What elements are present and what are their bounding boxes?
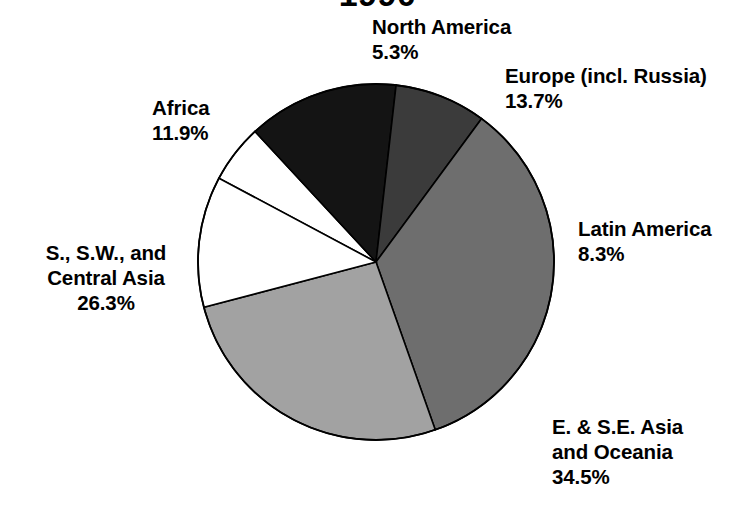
slice-label-east-southeast-asia-oceania-line2: and Oceania	[552, 439, 683, 464]
slice-label-latin-america-value: 8.3%	[578, 241, 712, 266]
chart-title: 1990	[0, 0, 755, 14]
slice-label-east-southeast-asia-oceania-line1: E. & S.E. Asia	[552, 415, 683, 438]
slice-label-africa: Africa 11.9%	[152, 95, 210, 145]
pie-graphic	[197, 83, 555, 441]
slice-label-latin-america-name: Latin America	[578, 217, 712, 240]
slice-label-latin-america: Latin America 8.3%	[578, 216, 712, 266]
slice-label-africa-value: 11.9%	[152, 120, 210, 145]
slice-label-north-america: North America 5.3%	[372, 14, 511, 64]
slice-label-africa-name: Africa	[152, 96, 210, 119]
slice-label-europe-value: 13.7%	[505, 88, 707, 113]
slice-label-europe: Europe (incl. Russia) 13.7%	[505, 63, 707, 113]
slice-label-east-southeast-asia-oceania-value: 34.5%	[552, 464, 683, 489]
slice-label-south-southwest-central-asia-line2: Central Asia	[6, 265, 206, 290]
slice-label-south-southwest-central-asia: S., S.W., and Central Asia 26.3%	[6, 240, 206, 315]
slice-label-east-southeast-asia-oceania: E. & S.E. Asia and Oceania 34.5%	[552, 414, 683, 489]
slice-label-north-america-name: North America	[372, 15, 511, 38]
pie-slices	[198, 84, 554, 440]
pie-svg	[197, 83, 555, 441]
pie-chart-figure: 1990 North America 5.3% Europe (incl. Ru…	[0, 0, 755, 517]
slice-label-south-southwest-central-asia-line1: S., S.W., and	[46, 241, 167, 264]
slice-label-north-america-value: 5.3%	[372, 39, 511, 64]
slice-label-europe-name: Europe (incl. Russia)	[505, 64, 707, 87]
slice-label-south-southwest-central-asia-value: 26.3%	[6, 290, 206, 315]
